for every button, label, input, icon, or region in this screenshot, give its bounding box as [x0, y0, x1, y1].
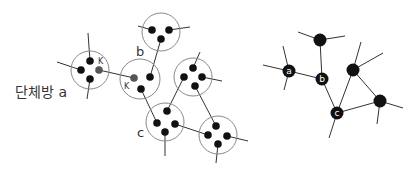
group-c-label: c: [137, 125, 144, 140]
group-room-diagram: K K b: [15, 13, 248, 163]
graph-node-top: [314, 34, 327, 47]
graph-edges: [263, 32, 403, 138]
graph-node-b: b: [316, 73, 329, 86]
svg-text:a: a: [286, 66, 292, 76]
graph-node-c: c: [331, 107, 344, 120]
shared-member-label: K: [124, 82, 130, 91]
graph-node-lower-right: [374, 95, 387, 108]
svg-text:b: b: [319, 74, 325, 84]
graph-node-a: a: [283, 65, 296, 78]
group-room-b: K b: [120, 44, 160, 99]
group-room-top: [142, 13, 180, 51]
graph-node-upper-right: [347, 64, 360, 77]
group-b-label: b: [136, 44, 144, 59]
room-a-label: 단체방 a: [15, 84, 67, 100]
shared-member-label: K: [98, 57, 104, 66]
svg-text:c: c: [335, 108, 340, 118]
group-room-c: c: [137, 103, 184, 141]
group-room-upper-right: [174, 58, 212, 96]
network-graph: a b c: [263, 32, 403, 138]
diagram-canvas: K K b: [0, 0, 418, 174]
